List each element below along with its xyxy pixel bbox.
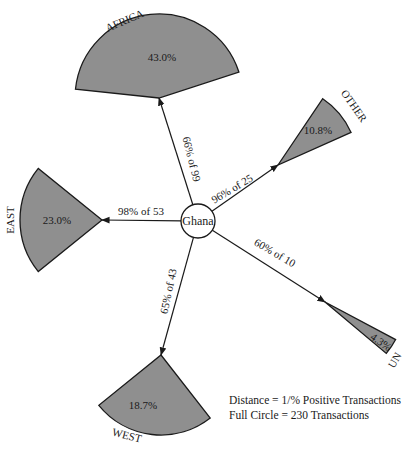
spoke-east xyxy=(102,220,181,221)
edge-label-east: 98% of 53 xyxy=(118,205,164,217)
edge-label-other: 96% of 25 xyxy=(209,171,255,205)
region-name-east: EAST xyxy=(4,206,16,234)
share-label-east: 23.0% xyxy=(43,214,71,226)
region-name-un: UN xyxy=(385,350,403,370)
share-label-africa: 43.0% xyxy=(148,51,176,63)
ghana-transactions-diagram: 66% of 9996% of 2598% of 5365% of 4360% … xyxy=(0,0,420,451)
hub-label: Ghana xyxy=(182,214,214,228)
legend: Distance = 1/% Positive Transactions Ful… xyxy=(229,393,401,423)
share-label-other: 10.8% xyxy=(304,124,332,136)
sector-west xyxy=(99,355,210,435)
share-label-west: 18.7% xyxy=(129,399,157,411)
legend-distance: Distance = 1/% Positive Transactions xyxy=(229,393,401,408)
legend-full-circle: Full Circle = 230 Transactions xyxy=(229,408,401,423)
edge-label-un: 60% of 10 xyxy=(252,236,298,270)
edge-label-west: 65% of 43 xyxy=(157,267,178,315)
hub-node: Ghana xyxy=(181,204,215,238)
